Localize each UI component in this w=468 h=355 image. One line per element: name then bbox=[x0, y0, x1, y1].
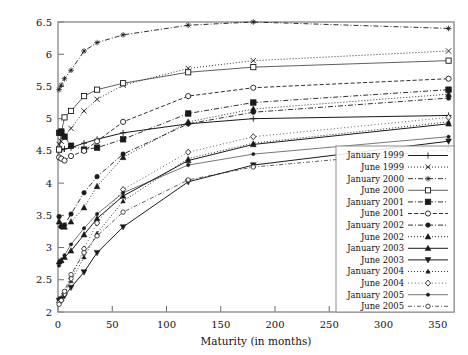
data-point-marker bbox=[186, 70, 191, 75]
data-point-marker bbox=[68, 153, 73, 158]
data-point-marker bbox=[425, 188, 430, 193]
data-point-marker bbox=[82, 251, 86, 255]
legend-label[interactable]: June 2004 bbox=[360, 278, 404, 288]
legend-marker-sample bbox=[425, 188, 430, 193]
legend-label[interactable]: January 2005 bbox=[346, 290, 404, 300]
data-point-marker bbox=[426, 304, 430, 308]
data-point-marker bbox=[56, 147, 61, 152]
chart-container: 22.533.544.555.566.5 0501001502002503003… bbox=[0, 0, 468, 355]
data-point-marker bbox=[62, 289, 66, 293]
data-point-marker bbox=[185, 111, 191, 117]
legend-label[interactable]: January 2003 bbox=[346, 243, 404, 253]
data-point-marker bbox=[58, 129, 64, 135]
legend-label[interactable]: January 1999 bbox=[346, 150, 404, 160]
data-point-marker bbox=[69, 272, 73, 276]
yield-curve-chart: 22.533.544.555.566.5 0501001502002503003… bbox=[0, 0, 468, 355]
legend-label[interactable]: June 2000 bbox=[360, 185, 404, 195]
data-point-marker bbox=[69, 212, 74, 217]
data-point-marker bbox=[121, 210, 125, 214]
data-point-marker bbox=[62, 158, 67, 163]
x-tick-label: 350 bbox=[428, 319, 447, 330]
x-tick-label: 50 bbox=[106, 319, 119, 330]
legend-label[interactable]: June 1999 bbox=[360, 162, 404, 172]
x-tick-label: 0 bbox=[55, 319, 61, 330]
x-axis-label: Maturity (in months) bbox=[201, 335, 312, 347]
data-point-marker bbox=[121, 191, 124, 194]
data-point-marker bbox=[94, 87, 99, 92]
legend-label[interactable]: January 2004 bbox=[346, 266, 404, 276]
x-tick-label: 150 bbox=[211, 319, 230, 330]
legend-label[interactable]: June 2002 bbox=[360, 232, 404, 242]
legend-label[interactable]: June 2003 bbox=[360, 255, 404, 265]
x-tick-label: 300 bbox=[374, 319, 393, 330]
data-point-marker bbox=[252, 152, 255, 155]
legend-label[interactable]: June 2005 bbox=[360, 301, 404, 311]
x-tick-label: 200 bbox=[265, 319, 284, 330]
legend-marker-sample bbox=[426, 293, 429, 296]
data-point-marker bbox=[426, 293, 429, 296]
data-point-marker bbox=[251, 65, 256, 70]
y-tick-label: 3 bbox=[46, 242, 52, 253]
y-tick-label: 2 bbox=[46, 307, 52, 318]
data-point-marker bbox=[120, 136, 126, 142]
data-point-marker bbox=[81, 94, 86, 99]
legend-label[interactable]: January 2000 bbox=[346, 174, 404, 184]
data-point-marker bbox=[82, 190, 87, 195]
data-point-marker bbox=[63, 254, 66, 257]
x-tick-label: 250 bbox=[320, 319, 339, 330]
data-point-marker bbox=[120, 119, 125, 124]
legend-label[interactable]: January 2002 bbox=[346, 220, 404, 230]
data-point-marker bbox=[94, 139, 99, 144]
legend-label[interactable]: January 2001 bbox=[346, 197, 404, 207]
data-point-marker bbox=[69, 243, 72, 246]
data-point-marker bbox=[250, 100, 256, 106]
data-point-marker bbox=[95, 212, 98, 215]
data-point-marker bbox=[57, 264, 60, 267]
data-point-marker bbox=[68, 108, 73, 113]
data-point-marker bbox=[120, 81, 125, 86]
data-point-marker bbox=[68, 143, 74, 149]
legend-marker-sample bbox=[425, 199, 431, 205]
y-tick-label: 2.5 bbox=[36, 274, 52, 285]
data-point-marker bbox=[62, 134, 68, 140]
legend-label[interactable]: June 2001 bbox=[360, 208, 404, 218]
data-point-marker bbox=[426, 223, 431, 228]
data-point-marker bbox=[425, 211, 430, 216]
data-point-marker bbox=[186, 163, 189, 166]
legend-marker-sample bbox=[426, 223, 431, 228]
data-point-marker bbox=[60, 260, 63, 263]
y-tick-label: 6 bbox=[46, 49, 52, 60]
x-tick-label: 100 bbox=[157, 319, 176, 330]
y-tick-label: 5.5 bbox=[36, 81, 52, 92]
data-point-marker bbox=[59, 298, 63, 302]
y-tick-label: 4.5 bbox=[36, 145, 52, 156]
data-point-marker bbox=[82, 227, 85, 230]
y-tick-label: 4 bbox=[46, 178, 52, 189]
legend-marker-sample bbox=[425, 176, 431, 182]
chart-legend: January 1999June 1999January 2000June 20… bbox=[336, 146, 454, 312]
data-point-marker bbox=[62, 115, 67, 120]
data-point-marker bbox=[94, 145, 100, 151]
legend-marker-sample bbox=[425, 211, 430, 216]
data-point-marker bbox=[186, 178, 190, 182]
data-point-marker bbox=[251, 165, 255, 169]
legend-marker-sample bbox=[426, 304, 430, 308]
data-point-marker bbox=[95, 234, 99, 238]
data-point-marker bbox=[425, 199, 431, 205]
data-point-marker bbox=[446, 58, 451, 63]
data-point-marker bbox=[186, 94, 191, 99]
y-tick-label: 6.5 bbox=[36, 17, 52, 28]
data-point-marker bbox=[251, 85, 256, 90]
data-point-marker bbox=[447, 135, 450, 138]
data-point-marker bbox=[95, 174, 100, 179]
y-tick-label: 5 bbox=[46, 113, 52, 124]
data-point-marker bbox=[81, 148, 86, 153]
data-point-marker bbox=[446, 76, 451, 81]
y-tick-label: 3.5 bbox=[36, 210, 52, 221]
